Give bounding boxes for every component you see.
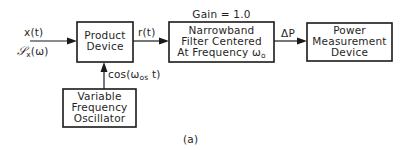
omega-symbol: ω — [252, 46, 261, 58]
filter-gain-label: Gain = 1.0 — [169, 9, 274, 20]
osc-signal-suffix: t) — [148, 68, 160, 80]
oscillator-line-3: Oscillator — [63, 113, 136, 124]
narrowband-filter-label: Narrowband Filter Centered At Frequency … — [169, 25, 274, 58]
block-diagram: x(t) 𝒮x(ω) Product Device r(t) Gain = 1.… — [0, 0, 411, 150]
osc-signal-prefix: cos(ω — [108, 68, 140, 80]
filter-line-3-text: At Frequency — [177, 46, 252, 58]
input-spectrum-label: 𝒮x(ω) — [17, 46, 48, 57]
power-line-3: Device — [307, 47, 392, 58]
input-arrowhead-icon — [67, 38, 77, 45]
oscillator-signal-label: cos(ωos t) — [108, 69, 161, 80]
filter-output-label: ΔP — [281, 28, 295, 39]
oscillator-label: Variable Frequency Oscillator — [63, 91, 136, 124]
input-time-label: x(t) — [24, 27, 43, 38]
power-arrowhead-icon — [297, 38, 307, 45]
spectral-density-symbol: 𝒮 — [17, 44, 26, 58]
product-device-label: Product Device — [77, 30, 133, 52]
diagram-canvas — [0, 0, 411, 150]
omega-subscript: o — [261, 51, 266, 60]
product-output-label: r(t) — [138, 27, 155, 38]
filter-line-3: At Frequency ωo — [169, 47, 274, 58]
figure-caption: (a) — [183, 134, 198, 145]
oscillator-arrowhead-icon — [101, 62, 108, 72]
spectrum-argument: (ω) — [31, 45, 49, 57]
filter-arrowhead-icon — [159, 38, 169, 45]
product-device-line-2: Device — [77, 41, 133, 52]
power-measurement-label: Power Measurement Device — [307, 25, 392, 58]
